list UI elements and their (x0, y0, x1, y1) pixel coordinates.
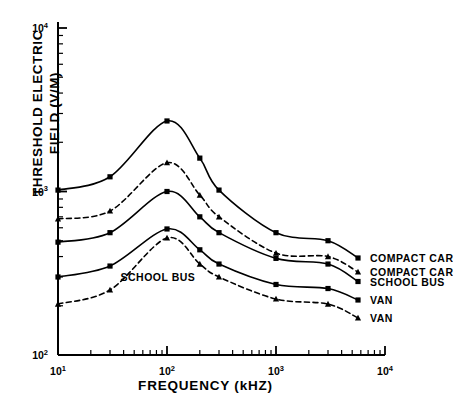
data-point-marker (273, 250, 279, 256)
series-line (58, 237, 358, 318)
data-point-marker (55, 240, 60, 245)
x-axis-title: FREQUENCY (kHZ) (0, 378, 411, 393)
legend-marker (355, 269, 361, 275)
data-point-marker (216, 261, 221, 266)
data-point-marker (107, 174, 112, 179)
legend-marker (355, 297, 360, 302)
y-tick-label: 102 (32, 348, 48, 362)
legend-marker (355, 279, 360, 284)
data-point-marker (273, 230, 278, 235)
legend-item-4: VAN (370, 294, 393, 306)
data-point-marker (197, 214, 202, 219)
data-point-marker (216, 230, 221, 235)
data-point-marker (197, 247, 202, 252)
annotation-school-bus: SCHOOL BUS (121, 271, 196, 283)
data-point-marker (164, 118, 169, 123)
data-point-marker (55, 274, 60, 279)
x-tick-label: 101 (50, 364, 66, 378)
data-point-marker (197, 156, 202, 161)
x-tick-label: 102 (159, 364, 175, 378)
legend-item-3: SCHOOL BUS (370, 276, 445, 288)
x-tick-label: 104 (377, 364, 394, 378)
data-point-marker (164, 235, 170, 241)
data-point-marker (216, 214, 222, 220)
y-axis-title: THRESHOLD ELECTRIC FIELD (V/M) (29, 3, 63, 223)
data-point-marker (325, 286, 330, 291)
data-point-marker (164, 226, 169, 231)
x-tick-label: 103 (268, 364, 284, 378)
data-point-marker (273, 256, 278, 261)
series-line (58, 121, 358, 258)
legend-item-1: COMPACT CAR (370, 252, 453, 264)
data-point-marker (325, 261, 330, 266)
data-point-marker (216, 187, 221, 192)
legend-item-5: VAN (370, 312, 393, 324)
series-line (58, 163, 358, 272)
legend-marker (355, 255, 360, 260)
data-point-marker (107, 230, 112, 235)
data-point-marker (164, 189, 169, 194)
data-point-marker (325, 238, 330, 243)
data-point-marker (273, 282, 278, 287)
data-point-marker (107, 263, 112, 268)
data-point-marker (107, 287, 113, 293)
